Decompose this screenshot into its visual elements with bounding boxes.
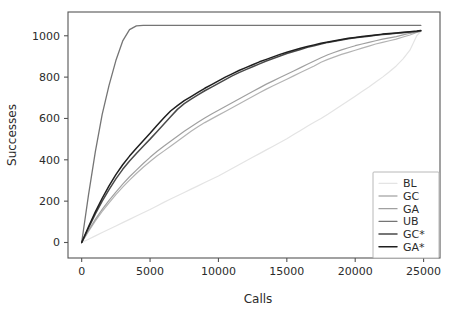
curve-gc [82,31,421,242]
legend-label-gastar[interactable]: GA* [403,241,425,254]
curve-ub [82,25,421,242]
legend-label-gc[interactable]: GC [403,190,420,203]
x-tick-label: 15000 [269,265,304,278]
y-tick-label: 400 [39,154,60,167]
legend-label-bl[interactable]: BL [403,177,418,190]
legend-label-gcstar[interactable]: GC* [403,228,425,241]
curve-group [82,25,421,242]
chart-legend[interactable]: BLGCGAUBGC*GA* [373,172,439,258]
x-axis-title: Calls [244,292,273,306]
y-tick-label: 200 [39,195,60,208]
legend-label-ub[interactable]: UB [403,215,419,228]
legend-label-ga[interactable]: GA [403,203,420,216]
axis-ticks [64,36,424,262]
line-chart-canvas: 0500010000150002000025000020040060080010… [0,0,456,312]
x-tick-label: 5000 [136,265,164,278]
x-tick-label: 20000 [338,265,373,278]
y-tick-label: 0 [53,236,60,249]
y-tick-label: 800 [39,71,60,84]
x-tick-label: 0 [78,265,85,278]
x-tick-label: 25000 [406,265,441,278]
curve-ga [82,31,421,242]
x-tick-label: 10000 [201,265,236,278]
y-tick-label: 600 [39,112,60,125]
y-axis-title: Successes [5,104,19,166]
curve-gastar [82,30,421,242]
chart-figure: 0500010000150002000025000020040060080010… [0,0,456,312]
y-tick-label: 1000 [32,30,60,43]
curve-gcstar [82,31,421,243]
curve-bl [82,31,421,242]
